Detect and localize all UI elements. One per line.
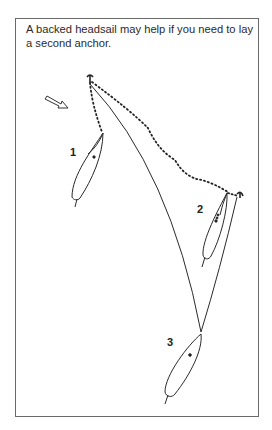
boat-2-label: 2 xyxy=(197,203,203,215)
boat-2 xyxy=(202,193,227,267)
boat-3-label: 3 xyxy=(167,336,173,348)
anchor-rope-to-boat-3 xyxy=(90,84,201,332)
wind-arrow-icon xyxy=(45,96,68,108)
boat-1 xyxy=(72,133,103,207)
anchor-rode-to-boat-2 xyxy=(92,82,228,192)
second-anchor-rope-to-boat-3 xyxy=(201,197,237,332)
boat-1-label: 1 xyxy=(70,146,76,158)
second-anchor-icon xyxy=(237,192,243,198)
anchoring-diagram: 1 2 3 xyxy=(0,0,272,430)
